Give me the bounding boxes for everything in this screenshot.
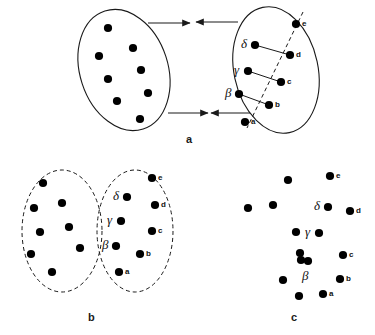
dot-b-b [136, 250, 144, 258]
dot-a-e [292, 20, 300, 28]
point-label-c-δ: δ [314, 199, 320, 212]
dot-b-1 [58, 199, 66, 207]
point-label-a-γ: γ [234, 63, 239, 76]
diagram-canvas [0, 0, 375, 335]
point-label-c-c: c [349, 251, 353, 259]
dot-a-0 [104, 24, 112, 32]
point-label-a-c: c [287, 78, 291, 86]
point-label-b-b: b [146, 250, 151, 258]
dot-a-5 [144, 89, 152, 97]
point-label-b-d: d [161, 201, 166, 209]
dot-c-a [319, 290, 327, 298]
panel-caption-c: c [291, 311, 297, 323]
dot-a-4 [104, 75, 112, 83]
ellipse-left-ellipse [22, 170, 102, 292]
dot-b-5 [76, 244, 84, 252]
dot-c-c [339, 251, 347, 259]
dot-a-c [277, 78, 285, 86]
connector-line-1 [248, 71, 281, 82]
dot-c-6 [292, 228, 300, 236]
dashed-axis-line [247, 12, 303, 128]
dot-c-2 [244, 204, 252, 212]
dot-a-d [286, 51, 294, 59]
dot-b-γ [117, 217, 125, 225]
dot-a-δ [251, 41, 259, 49]
dot-b-a [115, 268, 123, 276]
point-label-a-δ: δ [241, 37, 247, 50]
dot-c-b [336, 275, 344, 283]
dot-a-a [241, 118, 249, 126]
dot-b-6 [27, 250, 35, 258]
point-label-b-a: a [125, 268, 129, 276]
point-label-a-d: d [296, 51, 301, 59]
point-label-c-b: b [346, 275, 351, 283]
point-label-a-β: β [225, 86, 231, 99]
point-label-c-β: β [302, 269, 308, 282]
dot-c-8 [296, 249, 304, 257]
dot-c-δ [324, 203, 332, 211]
dot-c-10 [304, 257, 312, 265]
point-label-c-a: a [329, 290, 333, 298]
dot-b-d [151, 201, 159, 209]
dot-c-11 [279, 276, 287, 284]
dot-c-γ [315, 229, 323, 237]
dot-b-7 [48, 268, 56, 276]
dot-b-0 [39, 179, 47, 187]
dot-a-b [265, 101, 273, 109]
panel-caption-a: a [186, 133, 192, 145]
dot-c-e [326, 172, 334, 180]
dot-c-13 [295, 292, 303, 300]
dot-b-c [148, 227, 156, 235]
dot-a-1 [129, 44, 137, 52]
point-label-c-γ: γ [305, 225, 310, 238]
panel-a [63, 0, 330, 143]
dot-c-0 [284, 176, 292, 184]
point-label-c-e: e [336, 172, 340, 180]
panel-c [244, 172, 354, 300]
figure-container: aeδdγcβbabeδdγcβbaceδdγcbaβ [0, 0, 375, 335]
dot-c-d [346, 207, 354, 215]
dot-b-e [148, 174, 156, 182]
dot-b-2 [30, 204, 38, 212]
dot-c-3 [269, 201, 277, 209]
point-label-b-β: β [102, 238, 108, 251]
point-label-b-δ: δ [113, 189, 119, 202]
ellipse-left-ellipse [63, 0, 185, 143]
dot-a-6 [113, 97, 121, 105]
dot-a-7 [136, 115, 144, 123]
point-label-a-b: b [275, 101, 280, 109]
dot-b-3 [65, 223, 73, 231]
dot-b-β [112, 242, 120, 250]
point-label-b-γ: γ [107, 213, 112, 226]
point-label-b-e: e [158, 174, 162, 182]
dot-a-γ [244, 67, 252, 75]
dot-b-4 [36, 228, 44, 236]
panel-caption-b: b [88, 311, 95, 323]
dot-a-3 [137, 66, 145, 74]
dot-c-fused-partner [297, 256, 305, 264]
dot-a-β [235, 90, 243, 98]
point-label-c-d: d [356, 207, 361, 215]
point-label-a-a: a [251, 118, 255, 126]
dot-b-δ [123, 193, 131, 201]
point-label-b-c: c [158, 227, 162, 235]
point-label-a-e: e [302, 20, 306, 28]
dot-a-2 [95, 52, 103, 60]
panel-b [22, 170, 173, 292]
